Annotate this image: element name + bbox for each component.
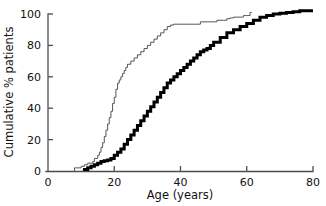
- x-tick-label: 20: [107, 176, 121, 189]
- x-tick-label: 80: [306, 176, 320, 189]
- y-tick-label: 40: [27, 102, 41, 115]
- series-line-thick-curve: [84, 11, 313, 171]
- cumulative-percent-patients-chart: 020406080100 020406080 Age (years) Cumul…: [0, 0, 326, 206]
- y-axis-ticks: [48, 14, 53, 140]
- data-series-group: [75, 11, 314, 171]
- y-axis-tick-labels: 020406080100: [20, 8, 41, 178]
- x-tick-label: 0: [45, 176, 52, 189]
- x-tick-label: 60: [240, 176, 254, 189]
- y-tick-label: 20: [27, 134, 41, 147]
- y-axis-title: Cumulative % patients: [2, 27, 16, 158]
- y-tick-label: 0: [34, 165, 41, 178]
- chart-plot-area: 020406080100 020406080 Age (years) Cumul…: [0, 0, 326, 206]
- x-axis-title: Age (years): [147, 188, 214, 202]
- x-axis-ticks: [114, 166, 313, 171]
- y-tick-label: 100: [20, 8, 41, 21]
- y-tick-label: 80: [27, 39, 41, 52]
- y-tick-label: 60: [27, 71, 41, 84]
